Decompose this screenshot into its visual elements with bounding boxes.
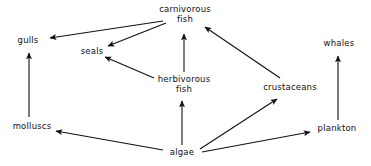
arrow-carnivorous-to-gulls	[50, 21, 163, 38]
node-crustaceans: crustaceans	[263, 83, 317, 93]
node-algae: algae	[170, 148, 194, 158]
node-molluscs: molluscs	[13, 122, 52, 132]
node-seals: seals	[81, 47, 104, 57]
node-gulls: gulls	[18, 36, 39, 46]
arrow-carnivorous-to-seals	[108, 23, 166, 46]
arrow-algae-to-plankton	[202, 132, 310, 152]
arrow-algae-to-molluscs	[56, 131, 163, 150]
arrow-crustaceans-to-carnivorous	[205, 27, 280, 78]
node-plankton: plankton	[318, 124, 357, 134]
arrow-herbivorous-to-seals	[105, 57, 154, 78]
node-whales: whales	[324, 39, 355, 49]
node-carnivorous_fish: carnivorous fish	[159, 5, 211, 24]
food-web-diagram: carnivorous fishgullssealswhalesherbivor…	[0, 0, 371, 166]
arrow-algae-to-crustaceans	[200, 99, 277, 149]
node-herbivorous_fish: herbivorous fish	[158, 75, 211, 94]
